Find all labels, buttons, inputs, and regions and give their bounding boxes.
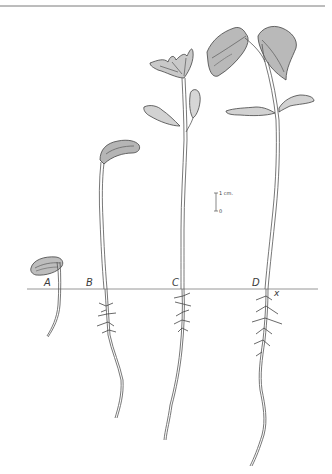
label-stage-b: B xyxy=(86,278,93,288)
label-stage-a: A xyxy=(44,278,51,288)
seedling-a xyxy=(31,257,63,337)
scale-bar-bottom-label: 0 xyxy=(219,209,222,214)
seedling-illustration: A B C D x 1 cm. 0 xyxy=(0,0,332,474)
label-stage-d: D xyxy=(252,278,260,288)
seedling-b xyxy=(97,140,140,418)
seedling-c xyxy=(144,49,200,440)
label-stage-c: C xyxy=(172,278,179,288)
scale-bar xyxy=(214,193,218,211)
scale-bar-top-label: 1 cm. xyxy=(219,191,233,196)
ground-marker-x: x xyxy=(274,288,279,298)
seedling-d xyxy=(207,26,314,466)
